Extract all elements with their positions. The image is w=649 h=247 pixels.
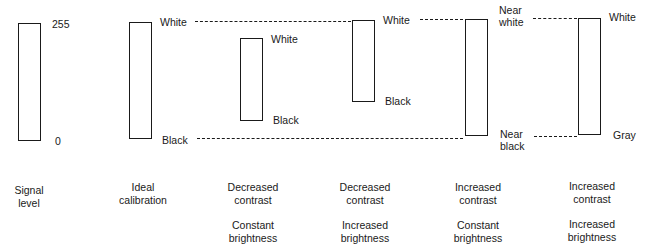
col4-black-label: Black (385, 95, 411, 107)
col5-near-black-label: Near black (500, 128, 525, 152)
caption-line: Increased (310, 219, 420, 232)
decreased-contrast-increased-brightness-bar (352, 20, 375, 102)
black-word: black (500, 140, 525, 152)
signal-max-label: 255 (52, 18, 70, 30)
signal-level-bar (18, 23, 41, 141)
caption-line: Signal (0, 184, 84, 197)
caption-line: Increased (537, 218, 647, 231)
caption-col6-contrast: Increased contrast (537, 180, 647, 206)
ideal-black-label: Black (162, 134, 188, 146)
caption-line: brightness (537, 231, 647, 244)
caption-col5-brightness: Constant brightness (423, 219, 533, 245)
decreased-contrast-constant-brightness-bar (240, 38, 263, 121)
col6-white-label: White (609, 11, 636, 23)
caption-line: brightness (310, 232, 420, 245)
caption-line: Decreased (198, 181, 308, 194)
white-level-dashed-line-1 (195, 21, 351, 22)
caption-line: contrast (423, 194, 533, 207)
col5-near-white-label: Near white (499, 4, 524, 28)
black-level-dashed-line-2 (534, 136, 577, 137)
caption-col4-contrast: Decreased contrast (310, 181, 420, 207)
black-level-dashed-line-1 (197, 138, 463, 139)
caption-line: contrast (537, 193, 647, 206)
caption-line: brightness (423, 232, 533, 245)
ideal-calibration-bar (129, 22, 152, 139)
white-level-dashed-line-3 (533, 18, 577, 19)
increased-contrast-increased-brightness-bar (578, 18, 601, 135)
caption-line: contrast (198, 194, 308, 207)
caption-line: Increased (537, 180, 647, 193)
caption-ideal-calibration: Ideal calibration (88, 181, 198, 207)
col3-black-label: Black (273, 114, 299, 126)
caption-line: Constant (423, 219, 533, 232)
caption-col6-brightness: Increased brightness (537, 218, 647, 244)
caption-line: Ideal (88, 181, 198, 194)
caption-col3-brightness: Constant brightness (198, 219, 308, 245)
caption-line: Decreased (310, 181, 420, 194)
caption-line: Constant (198, 219, 308, 232)
caption-signal-level: Signal level (0, 184, 84, 210)
caption-line: level (0, 197, 84, 210)
caption-line: contrast (310, 194, 420, 207)
caption-line: Increased (423, 181, 533, 194)
white-word: white (499, 16, 524, 28)
near-word: Near (500, 128, 525, 140)
white-level-dashed-line-2 (420, 19, 463, 20)
col3-white-label: White (271, 33, 298, 45)
caption-col4-brightness: Increased brightness (310, 219, 420, 245)
signal-min-label: 0 (55, 135, 61, 147)
near-word: Near (499, 4, 524, 16)
caption-col3-contrast: Decreased contrast (198, 181, 308, 207)
increased-contrast-constant-brightness-bar (465, 19, 488, 136)
caption-line: brightness (198, 232, 308, 245)
col4-white-label: White (383, 14, 410, 26)
caption-col5-contrast: Increased contrast (423, 181, 533, 207)
caption-line: calibration (88, 194, 198, 207)
ideal-white-label: White (160, 16, 187, 28)
col6-gray-label: Gray (613, 129, 636, 141)
